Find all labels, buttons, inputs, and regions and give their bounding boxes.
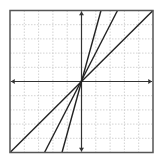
coordinate-graph [0, 0, 161, 160]
y-axis-down-arrow-icon [79, 148, 84, 152]
x-axis-right-arrow-icon [148, 79, 152, 84]
x-axis-left-arrow-icon [11, 79, 15, 84]
y-axis-up-arrow-icon [79, 12, 84, 16]
